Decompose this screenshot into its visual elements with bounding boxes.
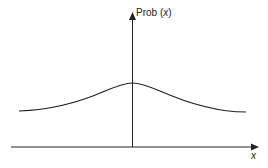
diagram-canvas <box>0 0 268 168</box>
y-axis-label: Prob (x) <box>136 7 172 18</box>
y-axis-arrow-icon <box>129 12 136 20</box>
x-axis-label: x <box>251 150 256 161</box>
